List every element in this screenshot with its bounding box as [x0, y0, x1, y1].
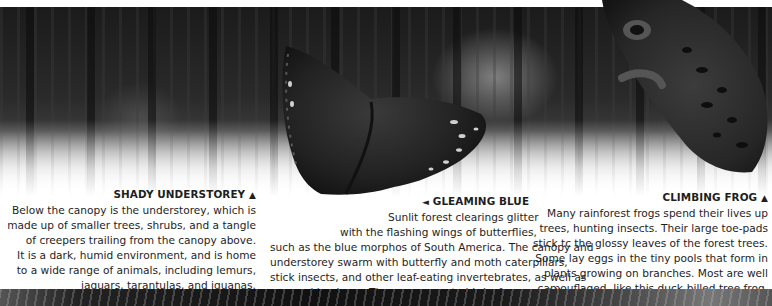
body-line: such as the blue morphos of South Americ… — [270, 240, 513, 255]
triangle-left-icon: ◄ — [422, 197, 429, 207]
tree-frog-image — [602, 0, 772, 175]
body-line: trees, hunting insects. Their large toe-… — [520, 221, 768, 236]
body-line: to a wide range of animals, including le… — [0, 263, 256, 278]
heading-text: CLIMBING FROG — [662, 191, 757, 203]
section-shady-understorey: SHADY UNDERSTOREY ▲ Below the canopy is … — [0, 187, 256, 293]
body-line: Below the canopy is the understorey, whi… — [0, 203, 256, 218]
section-heading: SHADY UNDERSTOREY ▲ — [0, 187, 256, 203]
body-line: of creepers trailing from the canopy abo… — [0, 233, 256, 248]
body-line: Sunlit forest clearings glitter — [270, 210, 513, 225]
section-heading: CLIMBING FROG ▲ — [520, 190, 768, 206]
foliage-strip-image — [0, 289, 772, 306]
body-line: stick insects, and other leaf-eating inv… — [270, 270, 513, 285]
body-line: with the flashing wings of butterflies, — [270, 225, 513, 240]
section-heading: ◄ GLEAMING BLUE — [270, 194, 513, 210]
section-gleaming-blue: ◄ GLEAMING BLUE Sunlit forest clearings … — [270, 194, 513, 300]
triangle-up-icon: ▲ — [761, 193, 768, 203]
body-line: understorey swarm with butterfly and mot… — [270, 255, 513, 270]
section-climbing-frog: CLIMBING FROG ▲ Many rainforest frogs sp… — [520, 190, 768, 296]
butterfly-image — [276, 44, 496, 199]
body-line: plants growing on branches. Most are wel… — [520, 266, 768, 281]
body-line: stick tc the glossy leaves of the forest… — [520, 236, 768, 251]
body-line: Many rainforest frogs spend their lives … — [520, 206, 768, 221]
triangle-up-icon: ▲ — [249, 190, 256, 200]
heading-text: GLEAMING BLUE — [433, 195, 529, 207]
body-line: Some lay eggs in the tiny pools that for… — [520, 251, 768, 266]
body-line: It is a dark, humid environment, and is … — [0, 248, 256, 263]
body-line: made up of smaller trees, shrubs, and a … — [0, 218, 256, 233]
heading-text: SHADY UNDERSTOREY — [113, 188, 245, 200]
